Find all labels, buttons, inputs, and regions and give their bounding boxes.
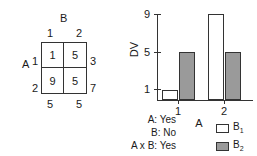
y-tick-label-1: 1 [138,84,150,95]
table-row-margin-1: 3 [90,56,96,67]
legend-label-b2: B2 [233,139,244,154]
table-cell-r1c1: 1 [42,43,64,68]
legend-item-b1: B1 [216,121,244,136]
y-axis-line [157,14,158,100]
bar-chart-panel: DV 1 5 9 1 2 A B1 B2 [124,0,257,156]
figure-root: B A 1 2 1 2 1 5 9 5 3 7 5 5 A: Yes B: No… [0,0,257,156]
bar-B2-a2 [225,52,241,100]
x-tick-label-2: 2 [217,106,231,117]
cell-means-table-panel: B A 1 2 1 2 1 5 9 5 3 7 5 5 [0,0,124,112]
bar-B1-a2 [208,14,224,100]
table-row-header-2: 2 [28,83,38,94]
gray-swatch-icon [216,142,229,151]
y-tick-label-9: 9 [138,9,150,20]
table-cell-r2c2: 5 [64,68,86,93]
table-column-header-2: 2 [72,28,86,39]
table-column-margin-1: 5 [43,99,57,110]
x-tick-mark-1 [178,100,179,104]
table-row-margin-2: 7 [90,83,96,94]
table-cell-r1c2: 5 [64,43,86,68]
bar-B1-a1 [162,90,178,100]
chart-legend: B1 B2 [216,121,244,156]
x-tick-label-1: 1 [171,106,185,117]
x-axis-title: A [189,118,209,129]
x-tick-mark-2 [224,100,225,104]
white-swatch-icon [216,124,229,133]
legend-item-b2: B2 [216,139,244,154]
y-tick-label-5: 5 [138,47,150,58]
table-column-margin-2: 5 [72,99,86,110]
table-row-header-1: 1 [28,56,38,67]
table-column-header-1: 1 [43,28,57,39]
table-column-factor-label: B [60,13,67,24]
table-grid: 1 5 9 5 [41,42,87,94]
x-axis-line [157,100,253,101]
legend-label-b1: B1 [233,121,244,136]
bar-B2-a1 [179,52,195,100]
table-cell-r2c1: 9 [42,68,64,93]
